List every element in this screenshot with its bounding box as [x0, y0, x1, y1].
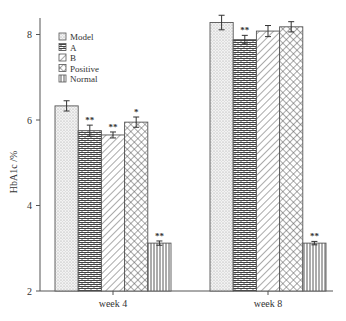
- y-tick-label: 6: [27, 115, 32, 126]
- y-tick: 4: [27, 200, 40, 211]
- legend-item-model: Model: [59, 32, 94, 42]
- bar-normal-week-8: **: [303, 231, 326, 291]
- legend-swatch: [59, 33, 66, 40]
- legend-swatch: [59, 54, 66, 61]
- legend-label: B: [70, 53, 76, 63]
- bar-a-week-8: **: [233, 25, 256, 291]
- x-axis: week 4week 8: [40, 291, 333, 309]
- significance-marker: **: [85, 115, 95, 125]
- legend: ModelABPositiveNormal: [59, 32, 99, 84]
- legend-label: A: [70, 43, 77, 53]
- bar-positive-week-4: *: [125, 107, 148, 291]
- bar-b-week-8: [256, 26, 279, 291]
- significance-marker: **: [155, 231, 165, 241]
- y-tick: 8: [27, 29, 40, 40]
- legend-swatch: [59, 44, 66, 51]
- legend-swatch: [59, 65, 66, 72]
- legend-label: Model: [70, 32, 94, 42]
- x-tick-label: week 4: [99, 298, 128, 309]
- y-axis-label: HbA1c /%: [8, 151, 19, 194]
- significance-marker: *: [134, 107, 139, 117]
- y-tick-label: 2: [27, 286, 32, 297]
- hba1c-bar-chart: 2468 week 4week 8 HbA1c /% *********** M…: [0, 0, 346, 321]
- legend-label: Positive: [70, 64, 99, 74]
- significance-marker: **: [310, 231, 320, 241]
- bars: ***********: [55, 15, 326, 291]
- bar-model-week-4: [55, 101, 78, 291]
- x-tick-label: week 8: [254, 298, 283, 309]
- significance-marker: **: [240, 25, 250, 35]
- legend-item-normal: Normal: [59, 74, 98, 84]
- legend-item-a: A: [59, 43, 77, 53]
- y-tick: 6: [27, 115, 40, 126]
- bar-normal-week-4: **: [148, 231, 171, 291]
- legend-label: Normal: [70, 74, 98, 84]
- legend-swatch: [59, 75, 66, 82]
- y-tick: 2: [27, 286, 40, 297]
- bar-a-week-4: **: [78, 115, 101, 291]
- legend-item-b: B: [59, 53, 76, 63]
- y-axis: 2468: [27, 18, 40, 297]
- y-tick-label: 4: [27, 200, 32, 211]
- bar-model-week-8: [210, 15, 233, 291]
- legend-item-positive: Positive: [59, 64, 99, 74]
- bar-positive-week-8: [280, 22, 303, 291]
- y-tick-label: 8: [27, 29, 32, 40]
- significance-marker: **: [109, 122, 119, 132]
- bar-b-week-4: **: [101, 122, 124, 291]
